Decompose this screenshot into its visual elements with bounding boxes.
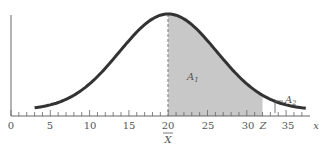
tick-label: 10 [84, 120, 97, 131]
x-axis-label: x [313, 120, 319, 131]
xbar-label: X [163, 134, 172, 145]
tick-label: 5 [47, 120, 53, 131]
tick-label: 20 [162, 120, 175, 131]
tick-label: 30 [242, 120, 255, 131]
x-tick-labels: 0 5 10 15 20 25 30 35 [8, 120, 295, 131]
z-label: Z [259, 120, 268, 131]
tick-label: 25 [202, 120, 215, 131]
tick-label: 15 [123, 120, 136, 131]
area-a1-shaded-region [168, 14, 262, 116]
tick-label: 35 [282, 120, 295, 131]
normal-distribution-diagram: 0 5 10 15 20 25 30 35 Z x X A1 A2 [0, 0, 327, 148]
tick-label: 0 [8, 120, 14, 131]
